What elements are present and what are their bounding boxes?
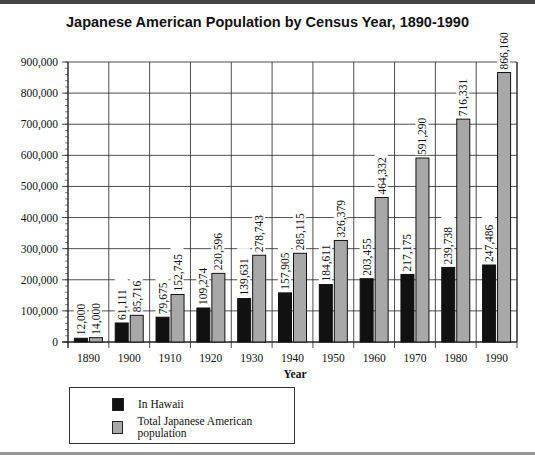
- value-label: 591,290: [416, 117, 429, 155]
- bar-total: [375, 198, 388, 342]
- value-label: 285,115: [294, 213, 307, 250]
- legend-label-hawaii: In Hawaii: [138, 398, 184, 410]
- bar-total: [457, 119, 470, 342]
- value-label: 866,160: [498, 32, 511, 70]
- y-tick-label: 0: [52, 336, 58, 348]
- value-label: 326,379: [335, 200, 348, 238]
- value-label: 203,455: [361, 238, 374, 276]
- value-label: 61,111: [116, 289, 129, 320]
- value-label: 217,175: [401, 234, 414, 272]
- legend-item-hawaii: In Hawaii: [112, 397, 184, 411]
- legend-label-total: Total Japanese American population: [137, 415, 294, 439]
- bar-hawaii: [483, 265, 496, 342]
- bar-hawaii: [319, 285, 332, 342]
- legend-swatch-total: [112, 421, 123, 434]
- bar-total: [89, 338, 102, 342]
- bar-total: [334, 240, 347, 342]
- legend: In Hawaii Total Japanese American popula…: [69, 387, 295, 444]
- bar-hawaii: [238, 299, 251, 342]
- x-tick-label: 1980: [444, 352, 467, 364]
- y-tick-label: 500,000: [21, 180, 59, 193]
- bar-total: [498, 73, 511, 342]
- bar-hawaii: [401, 274, 414, 342]
- bar-total: [212, 273, 225, 342]
- x-tick-label: 1910: [159, 352, 182, 364]
- bar-total: [294, 253, 307, 342]
- x-tick-label: 1890: [77, 352, 100, 364]
- x-tick-label: 1900: [118, 352, 141, 364]
- bar-hawaii: [360, 279, 373, 342]
- x-tick-label: 1970: [403, 352, 426, 364]
- value-label: 464,332: [376, 157, 389, 195]
- bar-hawaii: [442, 267, 455, 342]
- y-tick-label: 100,000: [21, 305, 59, 318]
- value-label: 109,274: [197, 267, 210, 305]
- x-tick-label: 1940: [281, 352, 304, 364]
- bar-total: [130, 315, 143, 342]
- value-label: 247,486: [483, 224, 496, 262]
- value-label: 12,000: [75, 303, 88, 335]
- value-label: 716,331: [457, 79, 470, 117]
- bar-total: [171, 294, 184, 342]
- y-tick-label: 700,000: [21, 118, 59, 131]
- value-label: 239,738: [442, 227, 455, 265]
- x-tick-label: 1990: [485, 352, 508, 364]
- bar-hawaii: [156, 317, 169, 342]
- bar-hawaii: [197, 308, 210, 342]
- bar-hawaii: [279, 293, 292, 342]
- y-tick-label: 800,000: [21, 87, 59, 100]
- value-label: 152,745: [172, 254, 185, 292]
- value-label: 139,631: [238, 258, 251, 296]
- value-label: 184,611: [320, 244, 333, 281]
- value-label: 157,905: [279, 252, 292, 290]
- bar-total: [253, 255, 266, 342]
- value-label: 278,743: [253, 215, 266, 253]
- x-tick-label: 1950: [322, 352, 345, 364]
- value-label: 14,000: [90, 303, 103, 335]
- legend-item-total: Total Japanese American population: [112, 420, 294, 434]
- x-axis-label: Year: [270, 368, 320, 380]
- value-label: 85,716: [131, 280, 144, 312]
- value-label: 220,596: [212, 233, 225, 271]
- y-tick-label: 400,000: [21, 212, 59, 225]
- bar-total: [416, 158, 429, 342]
- y-tick-label: 300,000: [21, 243, 59, 256]
- bottom-border: [0, 452, 535, 455]
- x-tick-label: 1920: [199, 352, 222, 364]
- legend-swatch-hawaii: [112, 398, 124, 411]
- x-tick-label: 1960: [363, 352, 386, 364]
- x-tick-label: 1930: [240, 352, 263, 364]
- y-tick-label: 600,000: [21, 149, 59, 162]
- bar-hawaii: [74, 338, 87, 342]
- y-tick-label: 200,000: [21, 274, 59, 287]
- y-tick-label: 900,000: [21, 56, 59, 69]
- value-label: 79,675: [157, 282, 170, 314]
- bar-hawaii: [115, 323, 128, 342]
